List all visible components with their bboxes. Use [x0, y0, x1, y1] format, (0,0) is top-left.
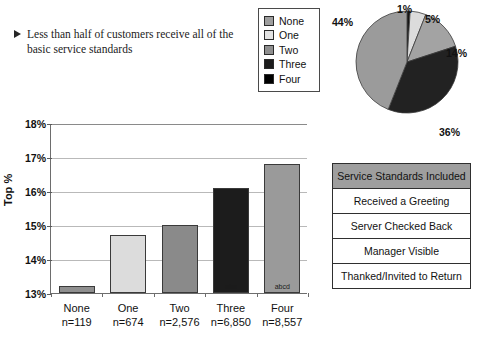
legend-item-two: Two: [264, 44, 314, 56]
x-axis-sample-size: n=119: [51, 315, 102, 329]
y-axis-tick-label: 13%: [25, 288, 46, 300]
triangle-right-icon: [14, 30, 21, 38]
x-axis-category: Four: [257, 301, 308, 315]
table-header: Service Standards Included: [333, 164, 470, 189]
x-axis-sample-size: n=8,557: [257, 315, 308, 329]
pie-chart: 1%5%14%36%44%: [333, 2, 479, 148]
x-axis-tick-mark: [154, 293, 155, 297]
legend-swatch-icon: [264, 59, 274, 69]
pie-value-label-none: 1%: [397, 3, 412, 15]
pie-value-label-three: 36%: [439, 126, 460, 138]
x-axis-category: Two: [154, 301, 205, 315]
callout-bullet: Less than half of customers receive all …: [14, 27, 254, 57]
y-axis-tick-mark: [47, 192, 52, 193]
pie-value-label-one: 5%: [425, 13, 440, 25]
legend-swatch-icon: [264, 30, 274, 40]
x-axis-category: Three: [205, 301, 256, 315]
x-axis-tick-mark: [51, 293, 52, 297]
bar-annotation: abc: [205, 283, 256, 290]
legend-item-label: Two: [279, 44, 298, 56]
legend-item-one: One: [264, 29, 314, 41]
x-axis-tick-mark: [205, 293, 206, 297]
table-row: Server Checked Back: [333, 214, 470, 239]
bar-three: [213, 188, 249, 293]
y-axis-tick-mark: [47, 124, 52, 125]
callout-text: Less than half of customers receive all …: [27, 27, 254, 57]
legend-item-label: Three: [279, 58, 306, 70]
pie-value-label-four: 44%: [332, 16, 353, 28]
y-axis-tick-label: 15%: [25, 220, 46, 232]
gridline: [51, 158, 307, 159]
pie-chart-svg: [355, 10, 459, 114]
table-row: Manager Visible: [333, 239, 470, 264]
legend-item-label: One: [279, 29, 299, 41]
x-axis-tick-mark: [308, 293, 309, 297]
y-axis-tick-label: 16%: [25, 186, 46, 198]
y-axis-tick-label: 17%: [25, 152, 46, 164]
x-axis-label-two: Twon=2,576: [154, 301, 205, 329]
slide-canvas: Less than half of customers receive all …: [0, 0, 479, 348]
y-axis-tick-label: 18%: [25, 118, 46, 130]
x-axis-sample-size: n=2,576: [154, 315, 205, 329]
x-axis-tick-mark: [257, 293, 258, 297]
x-axis-sample-size: n=674: [102, 315, 153, 329]
legend-swatch-icon: [264, 45, 274, 55]
y-axis-tick-label: 14%: [25, 254, 46, 266]
x-axis-tick-mark: [102, 293, 103, 297]
bar-one: [110, 235, 146, 293]
x-axis-label-four: Fourn=8,557: [257, 301, 308, 329]
y-axis-tick-mark: [47, 158, 52, 159]
chart-legend: NoneOneTwoThreeFour: [258, 8, 320, 92]
x-axis-category: None: [51, 301, 102, 315]
legend-item-four: Four: [264, 73, 314, 85]
legend-item-three: Three: [264, 58, 314, 70]
y-axis-tick-mark: [47, 226, 52, 227]
x-axis-label-one: Onen=674: [102, 301, 153, 329]
bar-chart-plot-area: 13%14%15%16%17%18%Nonen=119Onen=674Twon=…: [50, 124, 307, 294]
x-axis-label-none: Nonen=119: [51, 301, 102, 329]
bar-two: [162, 225, 198, 293]
y-axis-tick-mark: [47, 260, 52, 261]
legend-swatch-icon: [264, 16, 274, 26]
bar-annotation: abcd: [257, 283, 308, 290]
service-standards-table: Service Standards Included Received a Gr…: [332, 163, 471, 289]
x-axis-sample-size: n=6,850: [205, 315, 256, 329]
x-axis-label-three: Threen=6,850: [205, 301, 256, 329]
bar-four: [264, 164, 300, 293]
legend-item-none: None: [264, 15, 314, 27]
table-row: Thanked/Invited to Return: [333, 264, 470, 288]
legend-item-label: None: [279, 15, 304, 27]
x-axis-category: One: [102, 301, 153, 315]
table-row: Received a Greeting: [333, 189, 470, 214]
legend-swatch-icon: [264, 74, 274, 84]
gridline: [51, 124, 307, 125]
legend-item-label: Four: [279, 73, 301, 85]
pie-value-label-two: 14%: [446, 47, 467, 59]
bar-none: [59, 286, 95, 293]
y-axis-label: Top %: [2, 174, 14, 206]
bar-chart: Top % 13%14%15%16%17%18%Nonen=119Onen=67…: [0, 110, 330, 348]
